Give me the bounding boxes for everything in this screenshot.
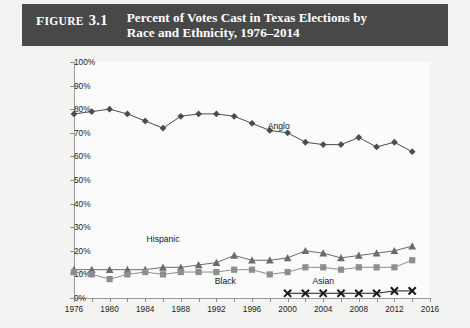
- x-axis-tick-label: 2008: [350, 304, 368, 314]
- data-point-marker: [213, 269, 219, 275]
- x-axis-tick-mark: [92, 298, 93, 302]
- data-point-marker: [107, 276, 113, 282]
- x-axis-tick-mark: [288, 298, 289, 302]
- x-axis-tick-mark: [412, 298, 413, 302]
- x-axis-tick-mark: [359, 298, 360, 302]
- data-point-marker: [124, 271, 130, 277]
- data-point-marker: [302, 247, 310, 254]
- data-point-marker: [213, 259, 221, 266]
- data-point-marker: [267, 271, 273, 277]
- series-line: [74, 109, 412, 151]
- data-point-marker: [284, 254, 292, 261]
- data-point-marker: [178, 269, 184, 275]
- series-label-anglo: Anglo: [268, 121, 290, 131]
- data-point-marker: [160, 125, 167, 132]
- data-point-marker: [320, 264, 326, 270]
- series-hispanic: [70, 242, 416, 273]
- data-point-marker: [302, 139, 309, 146]
- series-plot: [74, 62, 430, 298]
- data-point-marker: [124, 111, 131, 118]
- data-point-marker: [106, 106, 113, 113]
- series-label-hispanic: Hispanic: [147, 234, 180, 244]
- figure-title-line-1: Percent of Votes Cast in Texas Elections…: [127, 10, 367, 26]
- x-axis-tick-label: 2004: [314, 304, 332, 314]
- x-axis-tick-mark: [145, 298, 146, 302]
- x-axis-tick-mark: [181, 298, 182, 302]
- x-axis-tick-label: 2000: [278, 304, 296, 314]
- x-axis-tick-mark: [394, 298, 395, 302]
- x-axis-tick-mark: [163, 298, 164, 302]
- x-axis-tick-mark: [305, 298, 306, 302]
- series-asian: [284, 287, 416, 297]
- chart-panel: 0%10%20%30%40%50%60%70%80%90%100% 197619…: [22, 52, 448, 318]
- x-axis-tick-mark: [270, 298, 271, 302]
- figure-label-word: FIGURE: [36, 15, 84, 27]
- x-axis-tick-mark: [234, 298, 235, 302]
- data-point-marker: [356, 264, 362, 270]
- data-point-marker: [88, 108, 95, 115]
- x-axis-tick-label: 2012: [385, 304, 403, 314]
- figure-header-inner: FIGURE3.1 Percent of Votes Cast in Texas…: [36, 10, 438, 41]
- data-point-marker: [338, 267, 344, 273]
- x-axis-tick-label: 2016: [421, 304, 439, 314]
- x-axis-tick-mark: [110, 298, 111, 302]
- x-axis-tick-mark: [377, 298, 378, 302]
- data-point-marker: [213, 111, 220, 118]
- x-axis-tick-label: 1992: [207, 304, 225, 314]
- x-axis-tick-mark: [252, 298, 253, 302]
- data-point-marker: [374, 264, 380, 270]
- data-point-marker: [285, 269, 291, 275]
- data-point-marker: [391, 264, 397, 270]
- figure-container: FIGURE3.1 Percent of Votes Cast in Texas…: [0, 0, 470, 328]
- data-point-marker: [230, 252, 238, 259]
- series-anglo: [71, 106, 416, 155]
- x-axis-tick-label: 1980: [100, 304, 118, 314]
- figure-header-bar: FIGURE3.1 Percent of Votes Cast in Texas…: [22, 4, 448, 46]
- x-axis-tick-mark: [74, 298, 75, 302]
- data-point-marker: [338, 141, 345, 148]
- figure-title: Percent of Votes Cast in Texas Elections…: [127, 10, 367, 41]
- x-axis-tick-mark: [216, 298, 217, 302]
- data-point-marker: [177, 113, 184, 120]
- data-point-marker: [160, 271, 166, 277]
- data-point-marker: [373, 144, 380, 151]
- x-axis-tick-label: 1988: [172, 304, 190, 314]
- data-point-marker: [196, 269, 202, 275]
- data-point-marker: [249, 267, 255, 273]
- data-point-marker: [231, 267, 237, 273]
- x-axis-tick-label: 1976: [65, 304, 83, 314]
- data-point-marker: [249, 120, 256, 127]
- data-point-marker: [302, 264, 308, 270]
- data-point-marker: [195, 111, 202, 118]
- data-point-marker: [89, 271, 95, 277]
- data-point-marker: [409, 257, 415, 263]
- x-axis-tick-mark: [199, 298, 200, 302]
- x-axis-tick-mark: [341, 298, 342, 302]
- series-label-black: Black: [215, 276, 236, 286]
- x-axis-tick-mark: [127, 298, 128, 302]
- data-point-marker: [391, 139, 398, 146]
- data-point-marker: [71, 111, 78, 118]
- x-axis-tick-mark: [430, 298, 431, 302]
- data-point-marker: [142, 118, 149, 125]
- data-point-marker: [71, 269, 77, 275]
- data-point-marker: [142, 269, 148, 275]
- x-axis-tick-label: 1984: [136, 304, 154, 314]
- figure-label: FIGURE3.1: [36, 10, 108, 29]
- series-label-asian: Asian: [312, 276, 334, 286]
- data-point-marker: [408, 242, 416, 249]
- x-axis-tick-label: 1996: [243, 304, 261, 314]
- figure-title-line-2: Race and Ethnicity, 1976–2014: [127, 25, 367, 41]
- data-point-marker: [231, 113, 238, 120]
- data-point-marker: [320, 141, 327, 148]
- x-axis-tick-mark: [323, 298, 324, 302]
- data-point-marker: [355, 134, 362, 141]
- figure-number: 3.1: [89, 12, 108, 28]
- data-point-marker: [409, 148, 416, 155]
